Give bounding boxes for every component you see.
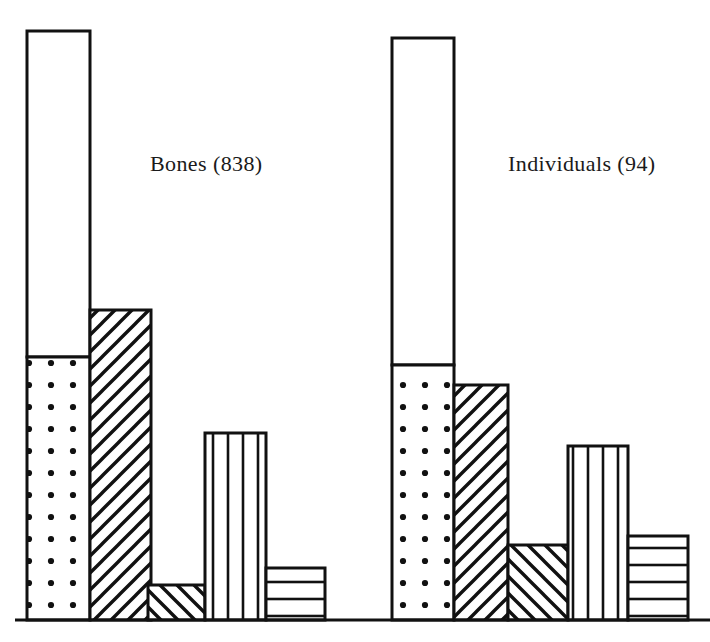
bar-bones-1-lower-segment	[27, 357, 90, 620]
bar-individuals-5	[628, 536, 688, 620]
bar-individuals-1-lower-segment	[392, 365, 454, 620]
bar-individuals-4	[568, 446, 628, 620]
bar-bones-4	[205, 433, 266, 620]
bar-bones-2	[90, 310, 151, 620]
bar-chart-figure: Bones (838) Individuals (94)	[0, 0, 710, 642]
bar-chart-plot	[0, 0, 710, 642]
bar-individuals-3	[508, 545, 568, 620]
bar-individuals-1-upper-segment	[392, 38, 454, 365]
bar-individuals-2	[454, 385, 508, 620]
bar-bones-1-upper-segment	[27, 31, 90, 357]
bar-bones-3	[148, 585, 205, 620]
bar-bones-5	[266, 568, 325, 620]
bars-layer	[27, 31, 688, 620]
group-label-bones: Bones (838)	[150, 151, 263, 177]
group-label-individuals: Individuals (94)	[508, 151, 656, 177]
